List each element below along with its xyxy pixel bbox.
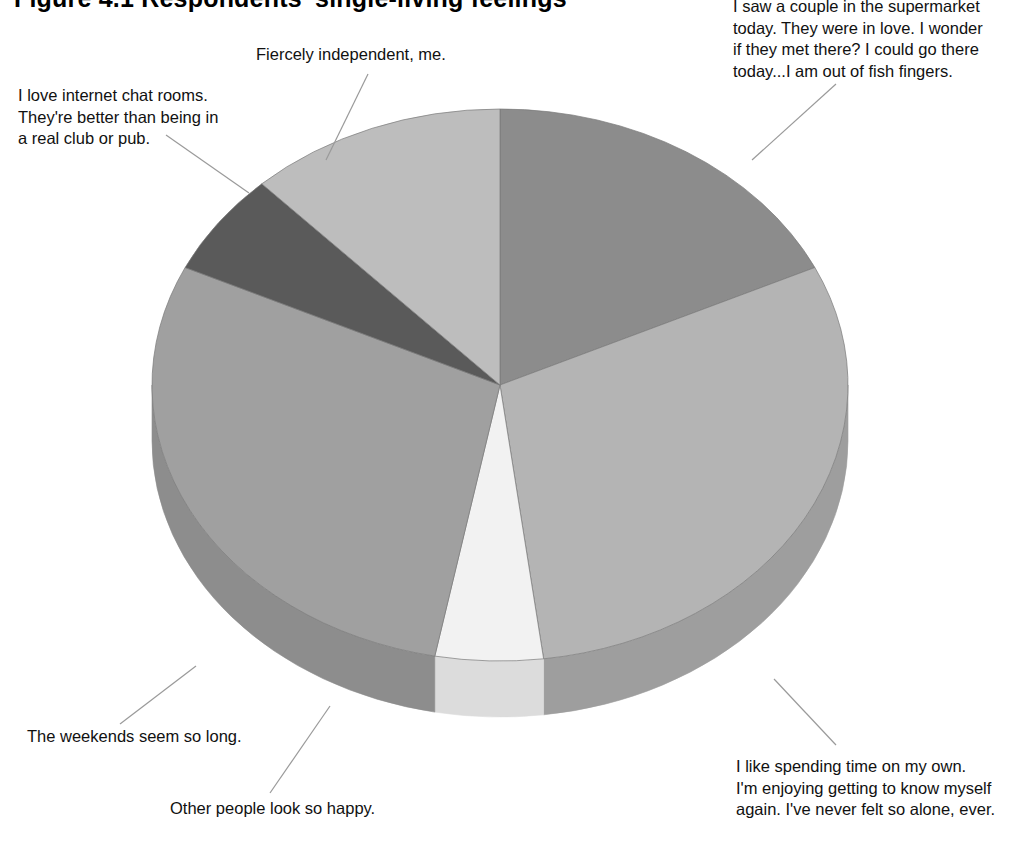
leader-line-supermarket xyxy=(752,84,836,160)
leader-line-weekends xyxy=(120,666,196,724)
callout-label-weekends: The weekends seem so long. xyxy=(27,726,287,748)
callout-label-independent: Fiercely independent, me. xyxy=(256,44,496,66)
leader-line-own-time xyxy=(774,679,836,745)
pie-slice-tops xyxy=(152,109,848,661)
callout-label-supermarket: I saw a couple in the supermarket today.… xyxy=(733,0,1009,82)
callout-label-chat-rooms: I love internet chat rooms. They're bett… xyxy=(18,85,248,150)
pie-slice-side-other-people-happy xyxy=(435,656,544,717)
callout-label-other-people-happy: Other people look so happy. xyxy=(170,798,430,820)
callout-label-own-time: I like spending time on my own. I'm enjo… xyxy=(736,756,1018,821)
leader-line-other-people-happy xyxy=(270,706,330,793)
pie-chart-figure: Figure 4.1 Respondents' single-living fe… xyxy=(0,0,1022,844)
